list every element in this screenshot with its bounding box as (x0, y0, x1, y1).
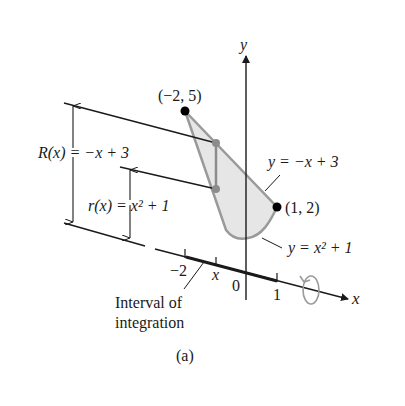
x-axis-label: x (351, 289, 360, 308)
washer-method-diagram: y x 0 −2 x 1 (−2, 5) (1, 2) y = −x + 3 y… (0, 0, 405, 406)
point-label-1-2: (1, 2) (285, 199, 320, 217)
inner-radius-line (120, 167, 216, 189)
interval-label-line1: Interval of (115, 294, 183, 311)
inner-radius-label: r(x) = x² + 1 (88, 197, 169, 215)
y-axis-label: y (238, 36, 248, 54)
interval-label-line2: integration (115, 314, 184, 332)
point-1-2 (273, 203, 282, 212)
parabola-label-leader (262, 238, 282, 248)
slice-top-dot (212, 139, 220, 147)
shaded-region (185, 111, 277, 239)
tick-label-x: x (211, 266, 219, 283)
line-label-leader (265, 175, 280, 191)
figure-caption: (a) (176, 347, 194, 365)
x-axis-left-segment (64, 223, 145, 246)
line-curve-label: y = −x + 3 (266, 153, 339, 171)
point-label-neg2-5: (−2, 5) (158, 87, 202, 105)
slice-bottom-dot (212, 185, 220, 193)
rotation-arrow-icon (300, 276, 319, 304)
parabola-curve-label: y = x² + 1 (286, 239, 353, 257)
tick-label-neg2: −2 (170, 262, 187, 279)
point-neg2-5 (181, 107, 190, 116)
outer-radius-label: R(x) = −x + 3 (37, 144, 129, 162)
tick-label-1: 1 (273, 286, 281, 303)
origin-label: 0 (232, 277, 240, 294)
